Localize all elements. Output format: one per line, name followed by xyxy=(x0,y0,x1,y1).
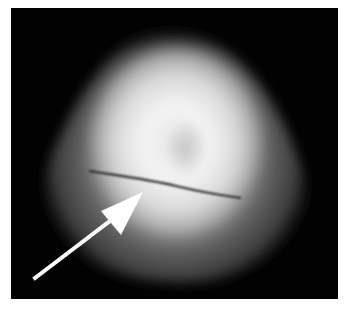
mottled-region xyxy=(164,118,208,178)
specimen-photo xyxy=(11,8,338,299)
